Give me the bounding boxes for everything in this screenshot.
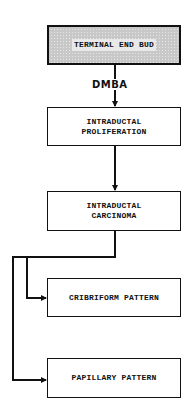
node-terminal-end-bud: TERMINAL END BUD [47,25,181,65]
node-label-line-2: PROLIFERATION [81,127,146,137]
node-intraductal-carcinoma: INTRADUCTAL CARCINOMA [47,191,181,231]
node-cribriform-pattern: CRIBRIFORM PATTERN [47,278,181,317]
node-label: CRIBRIFORM PATTERN [69,293,159,303]
node-papillary-pattern: PAPILLARY PATTERN [47,358,181,398]
node-label-line-1: INTRADUCTAL [86,201,141,211]
node-label: TERMINAL END BUD [72,39,156,51]
connector-to-cribriform [27,257,46,298]
node-label-line-2: CARCINOMA [91,211,136,221]
flowchart-diagram: TERMINAL END BUD DMBA INTRADUCTAL PROLIF… [0,0,196,420]
node-label: PAPILLARY PATTERN [71,373,156,383]
edge-label-dmba: DMBA [91,79,129,90]
node-intraductal-proliferation: INTRADUCTAL PROLIFERATION [47,107,181,146]
node-label-line-1: INTRADUCTAL [86,117,141,127]
